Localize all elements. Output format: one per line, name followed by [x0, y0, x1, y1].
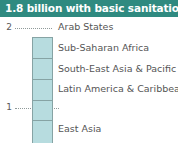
stacked-column [32, 37, 53, 143]
axis-leader-line-2 [15, 28, 52, 29]
region-label-arab-states: Arab States [58, 21, 113, 32]
region-label-east-asia: East Asia [58, 123, 101, 134]
axis-tick-label-2: 2 [2, 22, 12, 32]
region-label-latin-america-caribbean: Latin America & Caribbean [58, 83, 178, 94]
column-segment-arab-states [32, 37, 53, 59]
column-segment-sub-saharan-africa [32, 58, 53, 80]
sanitation-infographic: 1.8 billion with basic sanitation 2 1 Ar… [0, 0, 178, 143]
region-label-sub-saharan-africa: Sub-Saharan Africa [58, 42, 149, 53]
page-title: 1.8 billion with basic sanitation [5, 2, 176, 15]
column-segment-south-east-asia-pacific [32, 79, 53, 101]
column-segment-latin-america-caribbean [32, 100, 53, 121]
region-label-south-east-asia-pacific: South-East Asia & Pacific [58, 63, 176, 74]
axis-tick-label-1: 1 [2, 102, 12, 112]
title-banner: 1.8 billion with basic sanitation [0, 0, 178, 17]
chart-plot-area: 2 1 Arab States Sub-Saharan Africa South… [0, 17, 178, 143]
column-segment-east-asia [32, 120, 53, 143]
